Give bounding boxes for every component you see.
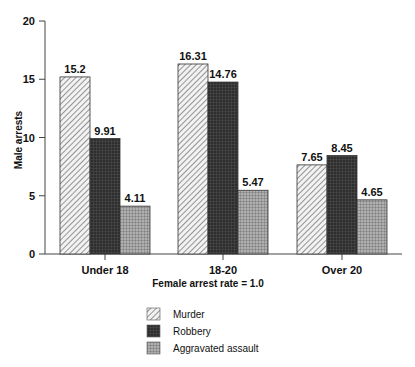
bar-aggravated-assault [238, 190, 268, 254]
legend-item-murder: Murder [147, 308, 205, 320]
bar-robbery [90, 139, 120, 254]
legend-swatch [147, 325, 160, 337]
bar-murder [60, 77, 90, 254]
x-tick-label: Under 18 [81, 264, 128, 276]
bar-value-label: 4.11 [125, 192, 146, 204]
y-tick-label: 0 [29, 248, 35, 260]
bar-group-over-20: 7.658.454.65 [297, 142, 387, 254]
bar-groups: 15.29.914.1116.3114.765.477.658.454.65 [60, 50, 387, 254]
grouped-bar-chart: 05101520 Under 1818-20Over 20 15.29.914.… [0, 0, 415, 367]
bar-murder [178, 64, 208, 254]
x-axis-title: Female arrest rate = 1.0 [152, 278, 264, 289]
legend-label: Robbery [173, 326, 211, 337]
bar-robbery [327, 156, 357, 254]
y-axis: 05101520 [23, 15, 45, 260]
bar-murder [297, 165, 327, 254]
bar-group-under-18: 15.29.914.11 [60, 63, 150, 254]
y-axis-title: Male arrests [13, 110, 24, 169]
x-axis: Under 1818-20Over 20 [45, 254, 402, 276]
bar-value-label: 14.76 [209, 68, 237, 80]
bar-value-label: 7.65 [301, 151, 322, 163]
y-tick-label: 15 [23, 73, 35, 85]
y-tick-label: 5 [29, 190, 35, 202]
bar-value-label: 15.2 [64, 63, 85, 75]
y-tick-label: 10 [23, 132, 35, 144]
legend-swatch [147, 308, 160, 320]
bar-aggravated-assault [357, 200, 387, 254]
legend-swatch [147, 342, 160, 354]
bar-value-label: 5.47 [242, 176, 263, 188]
legend-label: Murder [173, 309, 205, 320]
legend-item-robbery: Robbery [147, 325, 211, 337]
x-tick-label: 18-20 [209, 264, 237, 276]
legend: MurderRobberyAggravated assault [147, 308, 259, 354]
y-tick-label: 20 [23, 15, 35, 27]
bar-robbery [208, 82, 238, 254]
legend-label: Aggravated assault [173, 343, 259, 354]
bar-value-label: 16.31 [179, 50, 207, 62]
legend-item-aggravated-assault: Aggravated assault [147, 342, 259, 354]
bar-group-18-20: 16.3114.765.47 [178, 50, 268, 254]
x-tick-label: Over 20 [322, 264, 362, 276]
bar-aggravated-assault [120, 206, 150, 254]
bar-value-label: 9.91 [94, 125, 115, 137]
bar-value-label: 4.65 [361, 186, 382, 198]
bar-value-label: 8.45 [331, 142, 352, 154]
